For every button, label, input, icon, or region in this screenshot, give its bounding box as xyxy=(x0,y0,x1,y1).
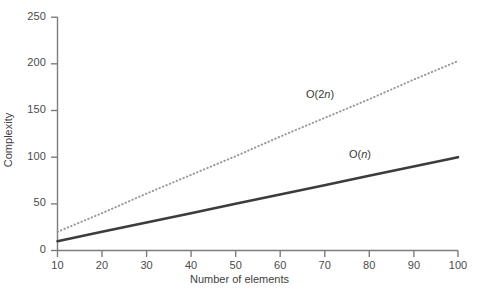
series-label-o2n: O(2n) xyxy=(306,88,334,100)
series-label-on-prefix: O( xyxy=(349,148,361,160)
series-label-o2n-prefix: O(2 xyxy=(306,88,324,100)
x-tick-label-50: 50 xyxy=(216,259,256,271)
y-tick-label-50: 50 xyxy=(8,196,46,208)
x-tick-label-90: 90 xyxy=(394,259,434,271)
y-tick-label-0: 0 xyxy=(8,243,46,255)
x-tick-label-10: 10 xyxy=(38,259,78,271)
y-tick-label-250: 250 xyxy=(8,10,46,22)
x-tick-label-80: 80 xyxy=(349,259,389,271)
y-tick-label-200: 200 xyxy=(8,56,46,68)
series-label-o2n-suffix: ) xyxy=(330,88,334,100)
x-tick-label-70: 70 xyxy=(305,259,345,271)
series-line-on xyxy=(58,157,459,241)
x-tick-label-20: 20 xyxy=(82,259,122,271)
chart-plot-svg xyxy=(0,0,479,293)
y-axis-ticks xyxy=(51,17,58,250)
series-label-on: O(n) xyxy=(349,148,371,160)
series-label-on-suffix: ) xyxy=(367,148,371,160)
x-axis-ticks xyxy=(58,251,459,258)
chart-figure: 0 50 100 150 200 250 10 20 30 40 50 60 7… xyxy=(0,0,479,293)
y-axis-title: Complexity xyxy=(2,100,14,180)
x-tick-label-30: 30 xyxy=(127,259,167,271)
x-tick-label-100: 100 xyxy=(438,259,478,271)
series-line-o2n xyxy=(58,61,459,232)
x-tick-label-40: 40 xyxy=(171,259,211,271)
x-axis-title: Number of elements xyxy=(0,273,479,285)
x-tick-label-60: 60 xyxy=(260,259,300,271)
